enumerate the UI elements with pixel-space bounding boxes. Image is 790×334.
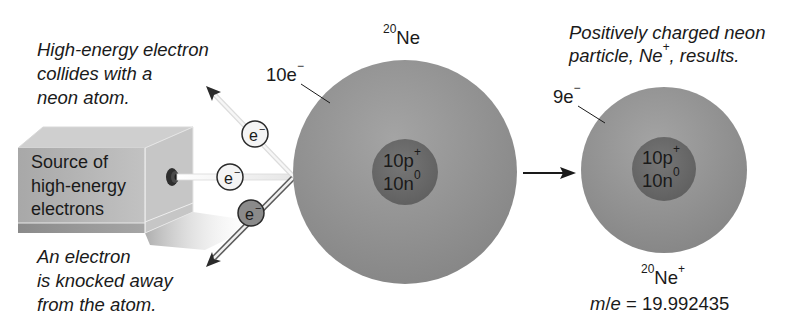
caption-collision-line-3: neon atom.	[37, 86, 130, 110]
ion-symbol: 20Ne+	[641, 266, 685, 290]
ion-nucleus-neutrons: 10n0	[642, 169, 680, 193]
box-base-band	[18, 223, 145, 233]
source-label-line-3: electrons	[31, 197, 104, 221]
caption-collision-line-2: collides with a	[37, 62, 152, 86]
svg-text:−: −	[259, 123, 265, 135]
svg-text:−: −	[255, 202, 261, 214]
ion-electron-count: 9e−	[553, 85, 581, 109]
svg-text:e: e	[249, 127, 258, 144]
source-label-line-2: high-energy	[31, 174, 126, 198]
caption-collision-line-1: High-energy electron	[37, 38, 209, 62]
svg-text:e: e	[245, 206, 254, 223]
electron-incoming: e −	[217, 164, 243, 190]
caption-result-line-2: particle, Ne+, results.	[569, 44, 740, 68]
neutral-atom-symbol: 20Ne	[383, 26, 420, 50]
neutral-atom-electron-count: 10e−	[266, 63, 304, 87]
electron-scattered: e −	[242, 121, 268, 147]
electron-ejected: e −	[238, 200, 264, 226]
caption-knocked-line-1: An electron	[37, 245, 131, 269]
source-label-line-1: Source of	[31, 150, 108, 174]
mass-to-charge-ratio: m/e = 19.992435	[590, 292, 729, 316]
caption-knocked-line-3: from the atom.	[37, 293, 156, 317]
neutral-nucleus-neutrons: 10n0	[383, 172, 421, 196]
svg-text:e: e	[224, 170, 233, 187]
reaction-arrow	[523, 167, 576, 179]
svg-text:−: −	[234, 166, 240, 178]
ion-electron-cloud-leader-line	[578, 106, 605, 123]
ionization-diagram: e − e − e − High-energy electron collide…	[0, 0, 790, 334]
caption-knocked-line-2: is knocked away	[37, 269, 173, 293]
